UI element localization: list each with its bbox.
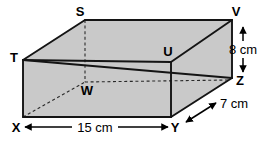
cuboid-diagram: S V T U W Z X Y 8 cm 7 cm <box>0 0 271 143</box>
dimension-depth-arrow <box>186 103 216 122</box>
vertex-label-T: T <box>10 50 18 65</box>
vertex-label-U: U <box>163 44 172 59</box>
cuboid-figure: S V T U W Z X Y 8 cm 7 cm <box>0 0 271 143</box>
vertex-label-S: S <box>76 4 85 19</box>
dimension-height: 8 cm <box>229 27 257 72</box>
vertex-label-V: V <box>232 4 241 19</box>
vertex-label-X: X <box>12 120 21 135</box>
vertex-label-Z: Z <box>236 73 244 88</box>
dimension-width-label: 15 cm <box>77 120 112 135</box>
dimension-height-label: 8 cm <box>229 42 257 57</box>
dimension-width: 15 cm <box>25 120 168 135</box>
face-front <box>23 60 171 117</box>
vertex-label-W: W <box>81 83 94 98</box>
dimension-depth-label: 7 cm <box>220 96 248 111</box>
vertex-label-Y: Y <box>171 120 180 135</box>
